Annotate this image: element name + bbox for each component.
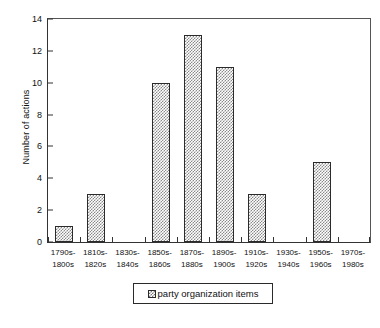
x-axis-tick-label: 1970s-1980s bbox=[337, 247, 369, 270]
bar-slot bbox=[112, 19, 144, 242]
y-axis-tick-label: 12 bbox=[32, 46, 48, 56]
x-axis-tick-mark bbox=[209, 237, 210, 242]
bar bbox=[87, 194, 105, 242]
x-axis-tick-label: 1890s-1900s bbox=[208, 247, 240, 270]
bar-series bbox=[48, 19, 370, 242]
x-axis-tick-mark bbox=[80, 237, 81, 242]
y-axis-tick-label: 8 bbox=[37, 110, 48, 120]
x-axis-tick-mark bbox=[112, 237, 113, 242]
x-axis-tick-mark bbox=[306, 237, 307, 242]
bar bbox=[152, 83, 170, 242]
bar-slot bbox=[241, 19, 273, 242]
bar bbox=[248, 194, 266, 242]
bar-slot bbox=[209, 19, 241, 242]
bar-slot bbox=[80, 19, 112, 242]
bar-slot bbox=[273, 19, 305, 242]
x-axis-tick-mark bbox=[145, 237, 146, 242]
x-axis-tick-label: 1950s-1960s bbox=[305, 247, 337, 270]
y-axis-tick-label: 4 bbox=[37, 173, 48, 183]
bar-slot bbox=[145, 19, 177, 242]
bar-slot bbox=[177, 19, 209, 242]
x-axis-tick-label: 1810s-1820s bbox=[79, 247, 111, 270]
x-axis-tick-mark bbox=[369, 237, 370, 242]
x-axis-tick-mark bbox=[241, 237, 242, 242]
y-axis-tick-label: 2 bbox=[37, 205, 48, 215]
x-axis-tick-mark bbox=[177, 237, 178, 242]
y-axis-tick-label: 10 bbox=[32, 78, 48, 88]
legend-label: party organization items bbox=[158, 288, 259, 299]
plot-area: 02468101214 bbox=[47, 18, 371, 243]
y-axis-tick-label: 6 bbox=[37, 141, 48, 151]
bar bbox=[55, 226, 73, 242]
bar bbox=[216, 67, 234, 242]
x-axis-tick-mark bbox=[273, 237, 274, 242]
x-axis-tick-label: 1850s-1860s bbox=[144, 247, 176, 270]
chart-legend: party organization items bbox=[133, 283, 273, 304]
legend-swatch-icon bbox=[148, 290, 156, 298]
y-axis-tick-label: 14 bbox=[32, 14, 48, 24]
bar-slot bbox=[48, 19, 80, 242]
x-axis-tick-labels: 1790s-1800s1810s-1820s1830s-1840s1850s-1… bbox=[47, 247, 371, 277]
y-axis-tick-label: 0 bbox=[37, 237, 48, 247]
x-axis-tick-label: 1790s-1800s bbox=[47, 247, 79, 270]
bar bbox=[184, 35, 202, 242]
x-axis-tick-label: 1830s-1840s bbox=[111, 247, 143, 270]
bar-slot bbox=[338, 19, 370, 242]
y-axis-title: Number of actions bbox=[21, 47, 31, 207]
x-axis-tick-mark bbox=[338, 237, 339, 242]
x-axis-tick-label: 1910s-1920s bbox=[240, 247, 272, 270]
bar bbox=[313, 162, 331, 242]
x-axis-tick-label: 1930s-1940s bbox=[272, 247, 304, 270]
x-axis-tick-label: 1870s-1880s bbox=[176, 247, 208, 270]
bar-chart-figure: Number of actions 02468101214 1790s-1800… bbox=[0, 0, 380, 328]
bar-slot bbox=[306, 19, 338, 242]
x-axis-tick-mark bbox=[48, 237, 49, 242]
